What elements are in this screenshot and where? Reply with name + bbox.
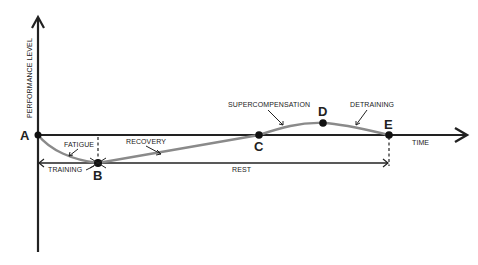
supercompensation-label: SUPERCOMPENSATION	[228, 101, 310, 108]
point-d	[319, 119, 327, 127]
point-e-label: E	[384, 117, 393, 132]
x-axis-label: TIME	[412, 139, 429, 146]
supercompensation-diagram: PERFORMANCE LEVEL TIME A B C D E FATIGUE…	[0, 0, 478, 265]
fatigue-label: FATIGUE	[64, 141, 94, 148]
point-a-label: A	[20, 128, 30, 143]
point-e	[385, 131, 393, 139]
y-axis-label: PERFORMANCE LEVEL	[26, 38, 33, 118]
point-c-label: C	[254, 139, 264, 154]
point-c	[255, 131, 263, 139]
point-a	[35, 132, 42, 139]
detraining-label: DETRAINING	[350, 101, 394, 108]
training-label: TRAINING	[48, 166, 82, 173]
point-b-label: B	[93, 168, 102, 183]
fatigue-pointer-arrow	[69, 149, 78, 156]
rest-label: REST	[232, 166, 252, 173]
recovery-label: RECOVERY	[126, 138, 166, 145]
detraining-pointer-arrow	[356, 110, 367, 125]
point-d-label: D	[318, 104, 327, 119]
supercompensation-pointer-arrow	[268, 110, 283, 125]
